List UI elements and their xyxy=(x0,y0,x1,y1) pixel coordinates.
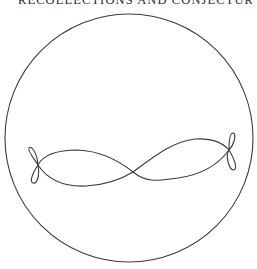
figure-eight-curve-lower xyxy=(38,139,229,186)
left-end-loop xyxy=(29,147,39,183)
bounding-circle xyxy=(5,14,253,262)
figure-svg xyxy=(0,0,257,269)
right-end-loop xyxy=(227,133,235,170)
figure xyxy=(0,0,257,269)
figure-eight-curve xyxy=(38,150,229,180)
